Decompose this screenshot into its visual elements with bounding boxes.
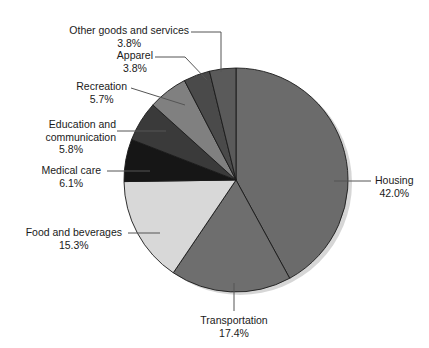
slice-label-education-and-communication-value: 5.8%: [26, 143, 116, 156]
pie-slices: [124, 68, 348, 292]
pie-chart: Other goods and services 3.8% Apparel 3.…: [0, 0, 429, 348]
slice-label-recreation: Recreation 5.7%: [76, 80, 127, 105]
slice-label-other-goods-and-services-value: 3.8%: [69, 37, 189, 50]
slice-label-medical-care-name: Medical care: [41, 164, 101, 177]
slice-label-transportation-name: Transportation: [200, 314, 267, 327]
slice-label-medical-care-value: 6.1%: [41, 177, 101, 190]
slice-label-recreation-name: Recreation: [76, 80, 127, 93]
slice-label-apparel-name: Apparel: [117, 49, 153, 62]
slice-label-education-and-communication: Education and communication 5.8%: [26, 118, 116, 156]
slice-label-housing: Housing 42.0%: [375, 174, 414, 199]
slice-label-apparel: Apparel 3.8%: [117, 49, 153, 74]
slice-label-transportation-value: 17.4%: [200, 327, 267, 340]
slice-label-other-goods-and-services-name: Other goods and services: [69, 24, 189, 37]
slice-label-food-and-beverages-value: 15.3%: [26, 239, 122, 252]
slice-label-education-and-communication-name-line1: Education and: [26, 118, 116, 131]
slice-label-apparel-value: 3.8%: [117, 62, 153, 75]
slice-label-other-goods-and-services: Other goods and services 3.8%: [69, 24, 189, 49]
slice-label-transportation: Transportation 17.4%: [200, 314, 267, 339]
slice-label-education-and-communication-name-line2: communication: [26, 131, 116, 144]
slice-label-food-and-beverages-name: Food and beverages: [26, 226, 122, 239]
slice-label-food-and-beverages: Food and beverages 15.3%: [26, 226, 122, 251]
slice-label-housing-name: Housing: [375, 174, 414, 187]
slice-label-medical-care: Medical care 6.1%: [41, 164, 101, 189]
slice-label-recreation-value: 5.7%: [76, 93, 127, 106]
slice-label-housing-value: 42.0%: [375, 187, 414, 200]
